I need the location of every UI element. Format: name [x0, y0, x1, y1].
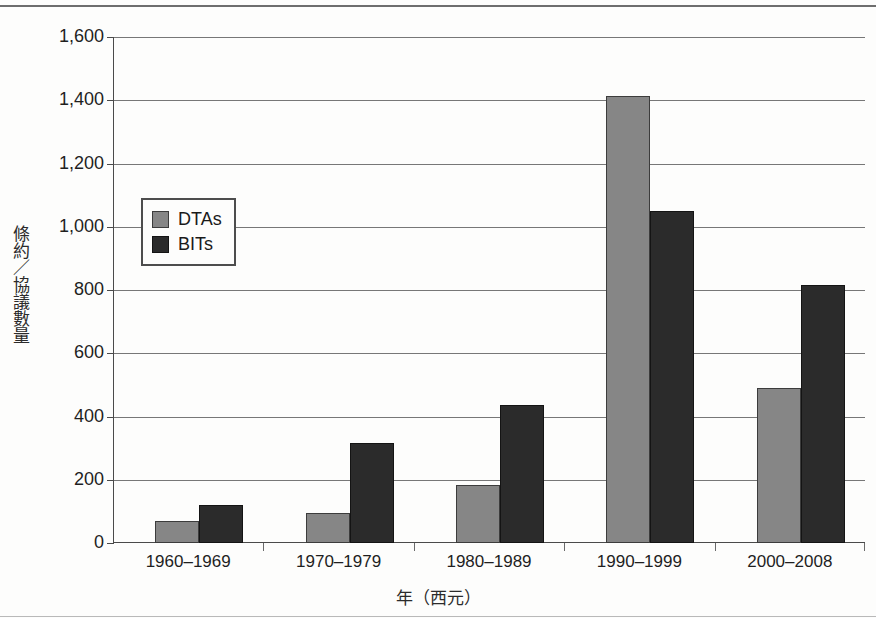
x-axis-tick-label: 1980–1989	[446, 552, 531, 572]
bar-dtas-1990–1999	[606, 96, 650, 543]
y-axis-tick-label: 800	[4, 279, 104, 300]
x-axis-tick	[864, 543, 865, 551]
y-axis-tick	[107, 543, 114, 544]
y-axis-tick	[107, 37, 114, 38]
bar-bits-1980–1989	[500, 405, 544, 543]
y-axis-tick-label: 400	[4, 406, 104, 427]
bar-bits-1960–1969	[199, 505, 243, 543]
y-axis-tick-label: 1,400	[4, 89, 104, 110]
chart-legend: DTAs BITs	[141, 198, 236, 266]
y-axis-tick-label: 1,600	[4, 26, 104, 47]
gridline	[113, 37, 865, 38]
bar-dtas-1960–1969	[155, 521, 199, 543]
x-axis-tick	[715, 543, 716, 551]
x-axis-tick-label: 1960–1969	[146, 552, 231, 572]
y-axis-tick-label: 0	[4, 532, 104, 553]
y-axis-tick	[107, 227, 114, 228]
gridline	[113, 290, 865, 291]
y-axis-tick	[107, 417, 114, 418]
plot-area	[113, 37, 865, 543]
y-axis-tick	[107, 100, 114, 101]
x-axis-tick	[414, 543, 415, 551]
gridline	[113, 100, 865, 101]
legend-swatch-dtas-icon	[152, 211, 169, 228]
y-axis-tick	[107, 290, 114, 291]
x-axis-tick	[564, 543, 565, 551]
bar-dtas-1970–1979	[306, 513, 350, 543]
legend-label-dtas: DTAs	[178, 209, 222, 230]
gridline	[113, 353, 865, 354]
bar-bits-1990–1999	[650, 211, 694, 543]
x-axis-tick-labels: 1960–19691970–19791980–19891990–19992000…	[113, 552, 865, 578]
chart-figure: 條約／協議數量 02004006008001,0001,2001,4001,60…	[0, 0, 876, 618]
y-axis-tick-label: 600	[4, 342, 104, 363]
legend-item-bits: BITs	[152, 232, 222, 257]
y-axis-tick-label: 1,200	[4, 153, 104, 174]
gridline	[113, 417, 865, 418]
x-axis-title: 年（西元）	[0, 584, 876, 609]
x-axis-tick	[263, 543, 264, 551]
y-axis-tick-labels: 02004006008001,0001,2001,4001,600	[0, 37, 104, 543]
y-axis-tick	[107, 480, 114, 481]
x-axis-tick-label: 2000–2008	[747, 552, 832, 572]
y-axis-tick-label: 200	[4, 469, 104, 490]
x-axis-tick-label: 1990–1999	[597, 552, 682, 572]
gridline	[113, 480, 865, 481]
page-top-rule	[0, 5, 876, 7]
y-axis-tick-label: 1,000	[4, 216, 104, 237]
legend-label-bits: BITs	[178, 234, 213, 255]
legend-item-dtas: DTAs	[152, 207, 222, 232]
bar-dtas-2000–2008	[757, 388, 801, 543]
bar-dtas-1980–1989	[456, 485, 500, 544]
bar-bits-2000–2008	[801, 285, 845, 543]
y-axis-tick	[107, 353, 114, 354]
bar-bits-1970–1979	[350, 443, 394, 543]
x-axis-tick-label: 1970–1979	[296, 552, 381, 572]
gridline	[113, 164, 865, 165]
legend-swatch-bits-icon	[152, 236, 169, 253]
page-bottom-rule	[0, 616, 876, 617]
y-axis-tick	[107, 164, 114, 165]
